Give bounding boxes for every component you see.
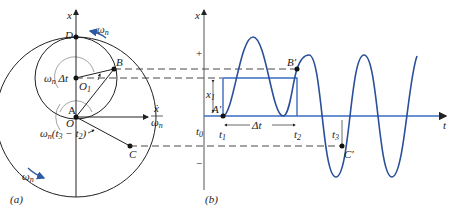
panel-a: x D B O1 A O C ωn ωn ωn Δt ωn(t3 − t2) ẋ… <box>0 9 163 206</box>
axis-label-t: t <box>443 119 447 131</box>
angle-t3-label: ωn(t3 − t2) <box>40 127 87 141</box>
point-A-prime <box>221 114 226 119</box>
label-A-prime: A′ <box>211 103 222 115</box>
t3-label: t3 <box>332 128 339 142</box>
response-curve <box>223 37 417 177</box>
t1-label: t1 <box>219 128 226 142</box>
label-B: B <box>116 56 123 68</box>
angle-dt-label: ωn Δt <box>44 72 69 86</box>
caption-b: (b) <box>205 193 218 206</box>
label-A: A <box>68 104 76 116</box>
plus-label: + <box>196 47 202 59</box>
t2-label: t2 <box>294 128 301 142</box>
xdot-axis-den: ωn <box>151 116 163 130</box>
point-D <box>74 35 79 40</box>
axis-label-x-b: x <box>194 9 200 21</box>
axis-label-x-a: x <box>66 9 72 21</box>
connector-lines <box>76 69 342 146</box>
omega-top-label: ωn <box>97 23 109 37</box>
label-B-prime: B′ <box>287 56 297 68</box>
angle-arrow-dt <box>98 74 100 80</box>
figure: x D B O1 A O C ωn ωn ωn Δt ωn(t3 − t2) ẋ… <box>0 0 456 218</box>
t0-label: t0 <box>196 125 203 139</box>
xdot-axis-num: ẋ <box>153 102 159 114</box>
label-C: C <box>129 148 137 160</box>
panel-b: x + − t t0 t1 t2 t3 x1 Δt A′ B′ C′ (b) <box>194 9 447 206</box>
step-input <box>223 78 297 116</box>
angle-arrow-t3 <box>88 130 94 133</box>
label-C-prime: C′ <box>344 148 354 160</box>
minus-label: − <box>196 157 202 169</box>
delta-t-label: Δt <box>251 119 262 131</box>
x1-label: x1 <box>205 88 215 102</box>
label-O1: O1 <box>79 80 91 94</box>
label-D: D <box>64 29 73 41</box>
caption-a: (a) <box>10 193 23 206</box>
